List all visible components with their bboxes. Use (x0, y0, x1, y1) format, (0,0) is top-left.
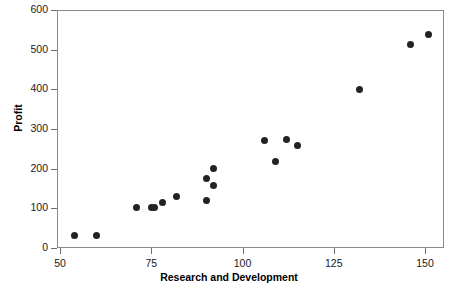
x-tick-mark (425, 248, 426, 254)
y-tick-label: 0 (8, 242, 48, 253)
data-point (93, 232, 100, 239)
x-tick-label: 50 (40, 258, 80, 269)
scatter-plot-figure: 0100200300400500600 5075100125150 Profit… (0, 0, 458, 286)
data-point (261, 137, 268, 144)
data-point (71, 232, 78, 239)
y-tick-label: 600 (8, 4, 48, 15)
data-point (294, 142, 301, 149)
x-tick-label: 100 (223, 258, 263, 269)
plot-area (57, 10, 444, 248)
y-axis-title: Profit (12, 88, 24, 148)
data-point (356, 86, 363, 93)
x-tick-label: 150 (405, 258, 445, 269)
data-point (283, 136, 290, 143)
data-point (210, 182, 217, 189)
x-tick-label: 75 (131, 258, 171, 269)
y-tick-mark (51, 10, 57, 11)
y-tick-label: 100 (8, 202, 48, 213)
y-tick-mark (51, 169, 57, 170)
data-point (210, 165, 217, 172)
data-point (203, 197, 210, 204)
x-axis-title: Research and Development (0, 271, 458, 283)
x-tick-label: 125 (314, 258, 354, 269)
x-tick-mark (243, 248, 244, 254)
data-point (159, 199, 166, 206)
y-tick-mark (51, 50, 57, 51)
y-tick-mark (51, 208, 57, 209)
y-tick-mark (51, 89, 57, 90)
x-tick-mark (60, 248, 61, 254)
y-tick-label: 500 (8, 44, 48, 55)
x-tick-mark (151, 248, 152, 254)
y-tick-label: 200 (8, 163, 48, 174)
y-tick-mark (51, 248, 57, 249)
y-tick-mark (51, 129, 57, 130)
x-tick-mark (334, 248, 335, 254)
